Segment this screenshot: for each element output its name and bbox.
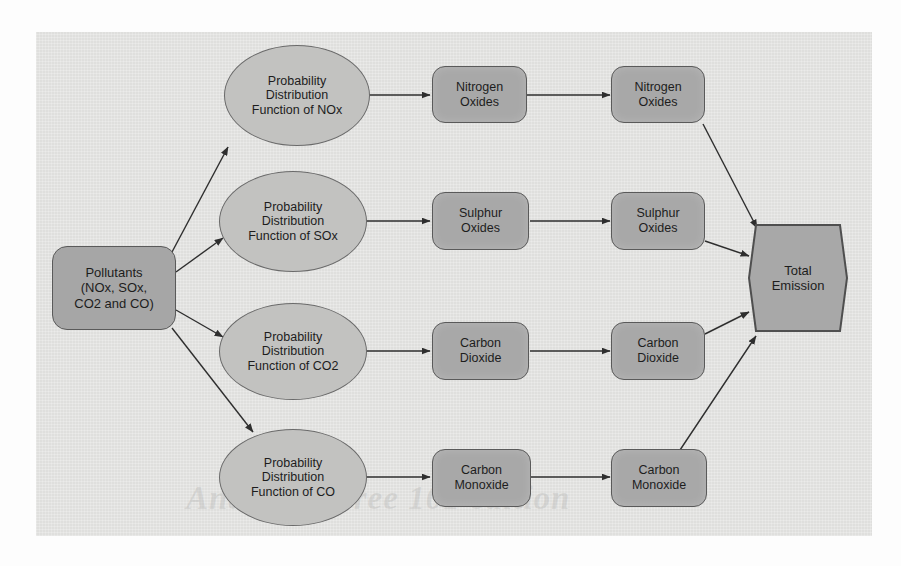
node-label: Probability Distribution Function of NOx xyxy=(252,74,342,118)
node-stage1-carbon-dioxide[interactable]: Carbon Dioxide xyxy=(432,322,529,380)
node-label: Pollutants (NOx, SOx, CO2 and CO) xyxy=(74,265,153,311)
node-label: Nitrogen Oxides xyxy=(456,80,503,109)
node-stage1-nitrogen-oxides[interactable]: Nitrogen Oxides xyxy=(432,66,527,123)
node-stage2-sulphur-oxides[interactable]: Sulphur Oxides xyxy=(611,192,705,250)
node-pdf-co[interactable]: Probability Distribution Function of CO xyxy=(219,429,367,526)
node-label: Carbon Dioxide xyxy=(637,336,679,365)
node-label: Carbon Monoxide xyxy=(454,463,508,492)
node-pollutants-source[interactable]: Pollutants (NOx, SOx, CO2 and CO) xyxy=(52,246,176,330)
node-stage2-carbon-dioxide[interactable]: Carbon Dioxide xyxy=(611,322,705,380)
node-label: Total Emission xyxy=(746,263,850,293)
node-stage2-nitrogen-oxides[interactable]: Nitrogen Oxides xyxy=(611,66,705,123)
node-label: Carbon Monoxide xyxy=(632,463,686,492)
node-pdf-co2[interactable]: Probability Distribution Function of CO2 xyxy=(219,303,367,400)
node-label: Sulphur Oxides xyxy=(636,206,679,235)
node-label: Sulphur Oxides xyxy=(459,206,502,235)
node-pdf-nox[interactable]: Probability Distribution Function of NOx xyxy=(224,45,370,146)
node-label: Probability Distribution Function of SOx xyxy=(248,200,338,244)
node-total-emission[interactable]: Total Emission xyxy=(746,222,850,334)
node-label: Probability Distribution Function of CO2 xyxy=(247,330,338,374)
figure-root: Analytics Free 101 edition Pollutants (N… xyxy=(0,0,901,566)
node-stage2-carbon-monoxide[interactable]: Carbon Monoxide xyxy=(611,449,707,507)
node-label: Carbon Dioxide xyxy=(460,336,502,365)
node-pdf-sox[interactable]: Probability Distribution Function of SOx xyxy=(219,171,367,272)
node-label: Nitrogen Oxides xyxy=(634,80,681,109)
node-stage1-sulphur-oxides[interactable]: Sulphur Oxides xyxy=(432,192,529,250)
node-stage1-carbon-monoxide[interactable]: Carbon Monoxide xyxy=(432,449,531,507)
node-label: Probability Distribution Function of CO xyxy=(251,456,335,500)
